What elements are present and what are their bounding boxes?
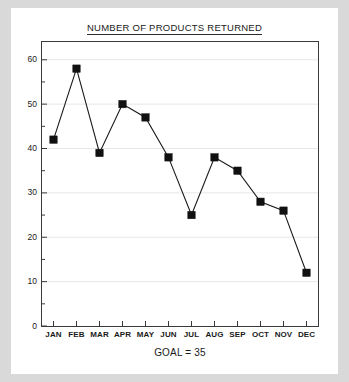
y-axis-tick-labels: 0102030405060 bbox=[11, 41, 37, 327]
plot-area bbox=[41, 41, 319, 327]
y-axis-tick-label: 40 bbox=[15, 144, 37, 153]
data-point-marker bbox=[211, 154, 218, 161]
chart-title-text: NUMBER OF PRODUCTS RETURNED bbox=[87, 22, 262, 35]
y-axis-tick-label: 10 bbox=[15, 277, 37, 286]
chart-page: NUMBER OF PRODUCTS RETURNED 010203040506… bbox=[0, 0, 349, 382]
data-point-marker bbox=[280, 207, 287, 214]
x-axis-tick-label-dec: DEC bbox=[292, 331, 322, 339]
data-line bbox=[54, 69, 307, 273]
y-axis-tick-label: 30 bbox=[15, 188, 37, 197]
data-point-marker bbox=[142, 114, 149, 121]
chart-card: NUMBER OF PRODUCTS RETURNED 010203040506… bbox=[11, 8, 338, 374]
data-point-marker bbox=[96, 149, 103, 156]
y-axis-tick-label: 20 bbox=[15, 233, 37, 242]
data-point-marker bbox=[257, 198, 264, 205]
data-point-marker bbox=[119, 100, 126, 107]
x-axis-tick-labels: JANFEBMARAPRMAYJUNJULAUGSEPOCTNOVDEC bbox=[41, 331, 319, 345]
y-axis-tick-label: 0 bbox=[15, 322, 37, 331]
line-chart-svg bbox=[42, 42, 318, 326]
chart-title: NUMBER OF PRODUCTS RETURNED bbox=[11, 22, 338, 33]
data-point-marker bbox=[303, 269, 310, 276]
y-axis-tick-label: 60 bbox=[15, 55, 37, 64]
y-axis-tick-label: 50 bbox=[15, 100, 37, 109]
data-point-marker bbox=[165, 154, 172, 161]
data-point-marker bbox=[73, 65, 80, 72]
data-point-marker bbox=[188, 211, 195, 218]
x-axis-caption: GOAL = 35 bbox=[41, 347, 319, 358]
data-point-marker bbox=[50, 136, 57, 143]
data-point-marker bbox=[234, 167, 241, 174]
